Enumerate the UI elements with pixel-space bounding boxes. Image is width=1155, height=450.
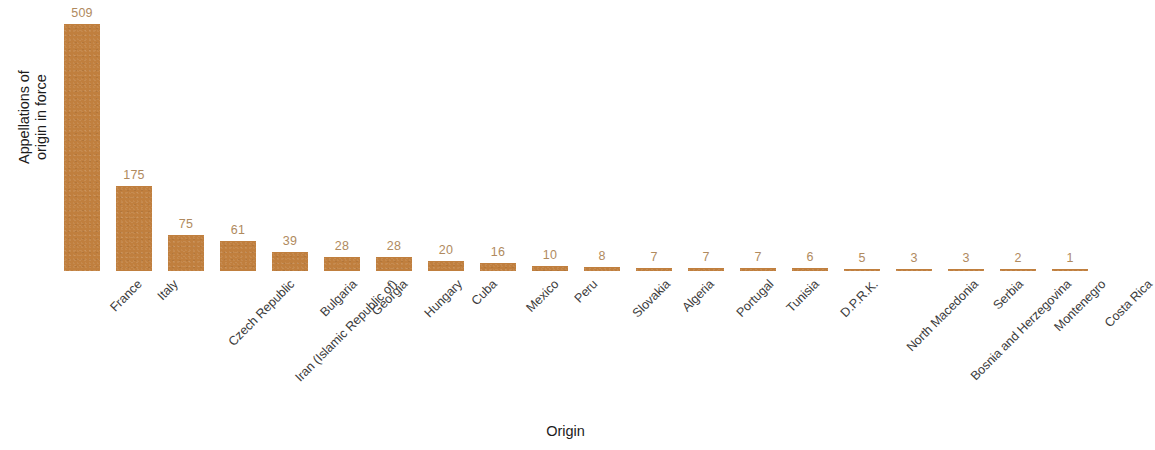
bar-value-label: 16 — [472, 245, 524, 259]
bar-hungary[interactable]: 28 — [368, 0, 420, 271]
x-tick-label: Tunisia — [784, 277, 822, 315]
bar-mexico[interactable]: 16 — [472, 0, 524, 271]
bar-bosnia-and-herzegovina[interactable]: 3 — [888, 0, 940, 271]
bar-france[interactable]: 509 — [56, 0, 108, 271]
x-tick-label: Cuba — [469, 277, 500, 308]
bar-tunisia[interactable]: 7 — [732, 0, 784, 271]
bar-rect — [428, 261, 464, 271]
bar-slovakia[interactable]: 8 — [576, 0, 628, 271]
y-axis-title: Appellations of origin in force — [16, 12, 50, 222]
bar-portugal[interactable]: 7 — [680, 0, 732, 271]
bar-value-label: 7 — [628, 250, 680, 264]
bar-value-label: 61 — [212, 223, 264, 237]
bar-value-label: 28 — [368, 239, 420, 253]
x-tick-label: Mexico — [524, 277, 562, 315]
bar-value-label: 6 — [784, 250, 836, 264]
x-axis-title: Origin — [0, 423, 1131, 439]
x-tick-label: D.P.R.K. — [838, 277, 881, 320]
bar-d-p-r-k[interactable]: 6 — [784, 0, 836, 271]
bar-value-label: 2 — [992, 251, 1044, 265]
x-tick-label: North Macedonia — [904, 277, 981, 354]
bar-value-label: 3 — [940, 251, 992, 265]
bar-value-label: 509 — [56, 6, 108, 20]
bar-value-label: 3 — [888, 251, 940, 265]
bar-iran-islamic-republic-of[interactable]: 61 — [212, 0, 264, 271]
x-tick-label: Algeria — [679, 277, 716, 314]
x-tick-label: Peru — [572, 277, 601, 306]
bar-algeria[interactable]: 7 — [628, 0, 680, 271]
x-tick-label: Czech Republic — [226, 277, 298, 349]
bar-peru[interactable]: 10 — [524, 0, 576, 271]
bar-rect — [64, 24, 100, 271]
bar-value-label: 8 — [576, 249, 628, 263]
bar-rect — [376, 257, 412, 271]
x-axis-tick-labels: FranceItalyCzech RepublicIran (Islamic R… — [56, 271, 1131, 421]
x-tick-label: Portugal — [734, 277, 777, 320]
bar-montenegro[interactable]: 2 — [992, 0, 1044, 271]
bar-rect — [324, 257, 360, 271]
bar-value-label: 10 — [524, 248, 576, 262]
bar-value-label: 28 — [316, 239, 368, 253]
bar-rect — [116, 186, 152, 271]
bar-rect — [220, 241, 256, 271]
bar-value-label: 1 — [1044, 251, 1096, 265]
bar-north-macedonia[interactable]: 5 — [836, 0, 888, 271]
bar-cuba[interactable]: 20 — [420, 0, 472, 271]
x-tick-label: Costa Rica — [1102, 277, 1155, 330]
bar-georgia[interactable]: 28 — [316, 0, 368, 271]
x-tick-label: Hungary — [422, 277, 465, 320]
bar-value-label: 5 — [836, 251, 888, 265]
bar-bulgaria[interactable]: 39 — [264, 0, 316, 271]
bar-value-label: 75 — [160, 217, 212, 231]
x-tick-label: Serbia — [991, 277, 1026, 312]
bar-serbia[interactable]: 3 — [940, 0, 992, 271]
bar-costa-rica[interactable]: 1 — [1044, 0, 1096, 271]
bar-value-label: 175 — [108, 168, 160, 182]
bar-value-label: 7 — [680, 250, 732, 264]
plot-area: 50917575613928282016108777653321 — [56, 0, 1131, 271]
bar-czech-republic[interactable]: 75 — [160, 0, 212, 271]
bar-italy[interactable]: 175 — [108, 0, 160, 271]
bar-value-label: 39 — [264, 234, 316, 248]
bar-value-label: 20 — [420, 243, 472, 257]
bar-rect — [480, 263, 516, 271]
x-tick-label: France — [107, 277, 144, 314]
x-tick-label: Slovakia — [630, 277, 673, 320]
bar-value-label: 7 — [732, 250, 784, 264]
bar-rect — [272, 252, 308, 271]
x-tick-label: Italy — [155, 277, 181, 303]
bar-rect — [168, 235, 204, 271]
